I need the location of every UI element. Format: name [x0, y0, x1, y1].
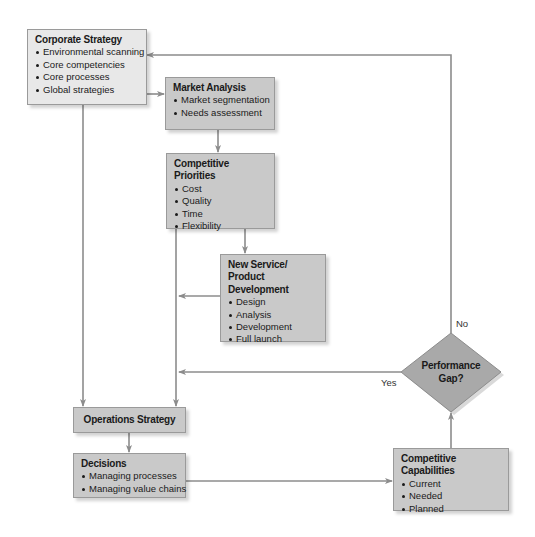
list-item: Managing processes	[81, 470, 178, 482]
list-item: Time	[174, 208, 267, 220]
list-item: Environmental scanning	[35, 46, 139, 58]
node-title: Competitive Priorities	[174, 158, 267, 183]
list-item: Analysis	[228, 309, 318, 321]
diamond-label-line1: Performance	[411, 359, 491, 372]
node-competitive-priorities: Competitive Priorities Cost Quality Time…	[166, 153, 275, 229]
node-title-line1: New Service/	[228, 259, 318, 271]
node-title: Corporate Strategy	[35, 34, 139, 46]
list-item: Core competencies	[35, 59, 139, 71]
node-title-line2: Product Development	[228, 271, 318, 296]
node-item-list: Managing processes Managing value chains	[81, 470, 178, 495]
list-item: Global strategies	[35, 84, 139, 96]
node-item-list: Market segmentation Needs assessment	[173, 94, 267, 119]
node-competitive-capabilities: Competitive Capabilities Current Needed …	[393, 448, 509, 511]
node-item-list: Cost Quality Time Flexibility	[174, 183, 267, 233]
edge-label-yes: Yes	[381, 377, 397, 388]
list-item: Flexibility	[174, 220, 267, 232]
list-item: Needed	[401, 490, 501, 502]
node-new-service-product-development: New Service/ Product Development Design …	[220, 254, 326, 342]
operations-strategy-flowchart: Corporate Strategy Environmental scannin…	[0, 0, 535, 537]
list-item: Development	[228, 321, 318, 333]
edge-label-no: No	[456, 318, 468, 329]
node-title: Decisions	[81, 458, 178, 470]
performance-gap-label: Performance Gap?	[411, 359, 491, 385]
node-operations-strategy: Operations Strategy	[73, 407, 186, 433]
list-item: Current	[401, 478, 501, 490]
list-item: Cost	[174, 183, 267, 195]
list-item: Planned	[401, 503, 501, 515]
list-item: Core processes	[35, 71, 139, 83]
node-item-list: Design Analysis Development Full launch	[228, 296, 318, 346]
node-decisions: Decisions Managing processes Managing va…	[73, 453, 186, 498]
node-title: Market Analysis	[173, 82, 267, 94]
list-item: Design	[228, 296, 318, 308]
node-market-analysis: Market Analysis Market segmentation Need…	[165, 77, 275, 130]
node-title: Competitive Capabilities	[401, 453, 501, 478]
node-item-list: Environmental scanning Core competencies…	[35, 46, 139, 96]
list-item: Quality	[174, 195, 267, 207]
node-corporate-strategy: Corporate Strategy Environmental scannin…	[27, 29, 147, 105]
node-item-list: Current Needed Planned	[401, 478, 501, 515]
node-title: Operations Strategy	[84, 414, 176, 426]
list-item: Needs assessment	[173, 107, 267, 119]
list-item: Full launch	[228, 333, 318, 345]
list-item: Managing value chains	[81, 483, 178, 495]
list-item: Market segmentation	[173, 94, 267, 106]
diamond-label-line2: Gap?	[411, 372, 491, 385]
